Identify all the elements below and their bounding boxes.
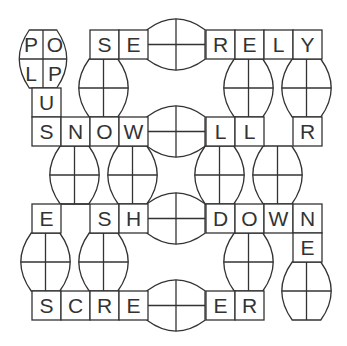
oval-cluster[interactable] [50, 146, 99, 204]
cell-letter: H [126, 207, 141, 230]
oval-cluster[interactable] [79, 233, 128, 291]
oval-clusters: POLP [19, 19, 331, 331]
letter-cell[interactable]: E [293, 233, 322, 262]
cell-letter: S [39, 294, 53, 317]
cell-letter: L [273, 33, 285, 56]
cell-letter: E [126, 33, 140, 56]
puzzle-grid: POLP SERELYUSNOWLLRESHDOWNESCREER [0, 0, 347, 346]
letter-cell[interactable]: N [293, 204, 322, 233]
cell-letter: E [300, 236, 314, 259]
oval-cluster[interactable] [282, 262, 331, 320]
cell-letter: W [269, 207, 289, 230]
oval-letter: O [47, 33, 63, 56]
cell-letter: O [241, 207, 257, 230]
cell-letter: S [39, 120, 53, 143]
letter-cell[interactable]: Y [293, 30, 322, 59]
oval-cluster[interactable] [147, 193, 205, 244]
oval-cluster[interactable] [147, 106, 205, 157]
letter-cell[interactable]: W [119, 117, 148, 146]
cell-letter: E [242, 33, 256, 56]
cell-letter: N [300, 207, 315, 230]
cell-letter: C [68, 294, 83, 317]
letter-cell[interactable]: O [235, 204, 264, 233]
oval-cluster[interactable] [21, 233, 70, 291]
oval-cluster[interactable] [108, 146, 157, 204]
letter-cell[interactable]: O [90, 117, 119, 146]
letter-cell[interactable]: R [90, 291, 119, 320]
cell-letter: S [97, 33, 111, 56]
letter-cell[interactable]: L [235, 117, 264, 146]
cell-letter: E [213, 294, 227, 317]
letter-cell[interactable]: S [32, 117, 61, 146]
letter-cell[interactable]: L [264, 30, 293, 59]
letter-cell[interactable]: E [206, 291, 235, 320]
cell-letter: R [97, 294, 112, 317]
letter-cell[interactable]: E [119, 291, 148, 320]
letter-cell[interactable]: U [32, 88, 61, 117]
letter-cell[interactable]: S [90, 30, 119, 59]
letter-cell[interactable]: H [119, 204, 148, 233]
cell-letter: R [213, 33, 228, 56]
cell-letter: L [244, 120, 256, 143]
letter-cell[interactable]: S [90, 204, 119, 233]
letter-cell[interactable]: W [264, 204, 293, 233]
letter-cell[interactable]: R [235, 291, 264, 320]
oval-cluster[interactable] [224, 59, 273, 117]
cell-letter: Y [300, 33, 314, 56]
cell-letter: O [96, 120, 112, 143]
letter-cell[interactable]: E [32, 204, 61, 233]
cell-letter: R [300, 120, 315, 143]
letter-cell[interactable]: C [61, 291, 90, 320]
cell-letter: E [39, 207, 53, 230]
oval-cluster[interactable] [282, 59, 331, 117]
letter-cell[interactable]: R [293, 117, 322, 146]
letter-cell[interactable]: S [32, 291, 61, 320]
letter-cell[interactable]: R [206, 30, 235, 59]
cell-letter: D [213, 207, 228, 230]
cell-letter: U [39, 91, 54, 114]
letter-cell[interactable]: E [119, 30, 148, 59]
oval-cluster[interactable] [147, 19, 205, 70]
cell-letter: S [97, 207, 111, 230]
word-puzzle-board: POLP SERELYUSNOWLLRESHDOWNESCREER [0, 0, 347, 346]
letter-cell[interactable]: E [235, 30, 264, 59]
oval-cluster[interactable] [224, 233, 273, 291]
cell-letter: E [126, 294, 140, 317]
oval-letter: P [48, 62, 62, 85]
oval-cluster[interactable] [195, 146, 244, 204]
letter-cell[interactable]: N [61, 117, 90, 146]
oval-cluster[interactable]: POLP [19, 30, 67, 88]
cell-letter: L [215, 120, 227, 143]
cell-letter: N [68, 120, 83, 143]
oval-cluster[interactable] [253, 146, 302, 204]
oval-letter: L [25, 62, 37, 85]
cell-letter: W [124, 120, 144, 143]
oval-cluster[interactable] [79, 59, 128, 117]
cell-letter: R [242, 294, 257, 317]
oval-letter: P [24, 33, 38, 56]
oval-cluster[interactable] [147, 280, 205, 331]
letter-cell[interactable]: L [206, 117, 235, 146]
letter-cell[interactable]: D [206, 204, 235, 233]
